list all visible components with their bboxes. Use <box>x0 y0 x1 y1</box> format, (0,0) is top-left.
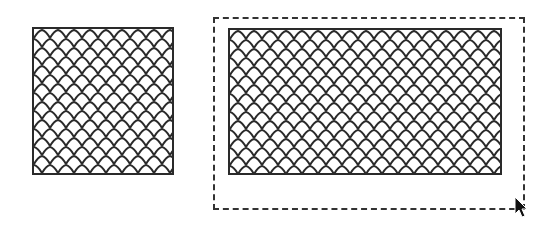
fish-scale-pattern-fill <box>230 30 500 173</box>
pattern-square-left[interactable] <box>32 27 174 175</box>
pattern-rectangle-right[interactable] <box>228 28 502 175</box>
fish-scale-pattern-fill <box>34 29 172 173</box>
arrow-pointer-icon <box>514 196 530 220</box>
